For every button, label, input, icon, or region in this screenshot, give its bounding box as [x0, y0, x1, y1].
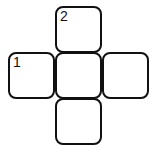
- cell-right[interactable]: [102, 52, 149, 99]
- cell-center[interactable]: [55, 52, 102, 99]
- cell-bottom[interactable]: [55, 98, 102, 145]
- clue-number: 1: [13, 55, 21, 69]
- cell-top[interactable]: 2: [55, 6, 102, 53]
- clue-number: 2: [60, 9, 68, 23]
- cell-left[interactable]: 1: [8, 52, 55, 99]
